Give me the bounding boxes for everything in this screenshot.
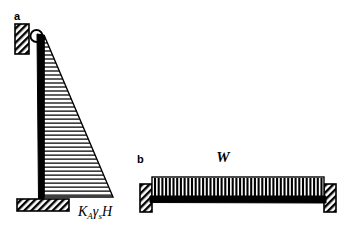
- engineering-diagram: a: [0, 0, 353, 232]
- beam-member: [150, 196, 326, 203]
- base-footing-block: [17, 199, 69, 211]
- pressure-triangle-outline: [44, 35, 113, 197]
- panel-b: b W: [137, 149, 336, 212]
- figure-container: a: [0, 0, 353, 232]
- panel-b-label: b: [137, 153, 144, 165]
- panel-b-load-block: [152, 177, 324, 197]
- top-abutment-block: [15, 24, 29, 54]
- height-symbol: H: [101, 204, 113, 219]
- panel-a-top-support: [15, 24, 29, 54]
- panel-a-pressure-triangle: [44, 35, 113, 197]
- panel-a-label: a: [14, 10, 21, 22]
- panel-a: a: [14, 10, 113, 221]
- panel-a-load-annotation: KAγsH: [77, 204, 113, 221]
- panel-b-load-annotation: W: [216, 149, 231, 165]
- coefficient-symbol: K: [77, 204, 88, 219]
- retaining-wall-member: [37, 34, 44, 199]
